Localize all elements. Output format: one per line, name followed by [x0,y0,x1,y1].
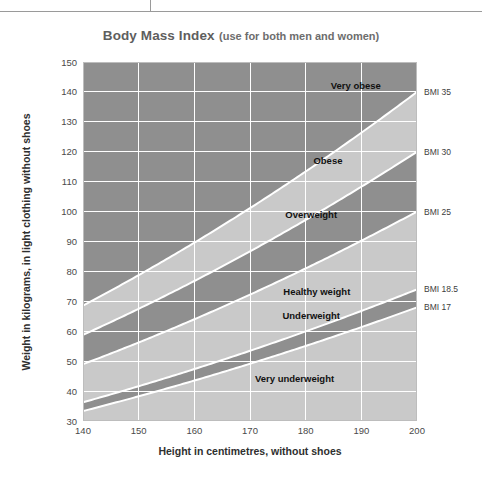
y-tick-90: 90 [66,236,77,247]
x-tick-200: 200 [409,425,425,436]
y-tick-50: 50 [66,356,77,367]
y-tick-130: 130 [61,116,77,127]
y-tick-150: 150 [61,57,77,68]
band-label-underweight: Underweight [282,310,340,321]
y-tick-40: 40 [66,386,77,397]
bmi-chart: 140150160170180190200 150140130120110100… [0,0,482,492]
x-axis-title: Height in centimetres, without shoes [158,445,341,457]
x-tick-190: 190 [353,425,369,436]
bmi-label-35: BMI 35 [424,87,451,97]
y-tick-140: 140 [61,86,77,97]
y-axis-title: Weight in kilograms, in light clothing w… [20,113,32,370]
y-tick-80: 80 [66,266,77,277]
bmi-label-17: BMI 17 [424,302,451,312]
x-tick-150: 150 [131,425,147,436]
bmi-chart-svg: 140150160170180190200 150140130120110100… [0,0,482,492]
bmi-label-25: BMI 25 [424,207,451,217]
y-tick-110: 110 [62,176,77,187]
band-label-overweight: Overweight [285,209,338,220]
band-label-very-underweight: Very underweight [255,373,335,384]
y-tick-60: 60 [66,326,77,337]
band-label-healthy-weight: Healthy weight [283,286,351,297]
y-tick-70: 70 [66,296,77,307]
bmi-label-18-5: BMI 18.5 [424,284,458,294]
x-axis-tick-labels: 140150160170180190200 [75,425,425,436]
x-tick-160: 160 [186,425,202,436]
x-tick-170: 170 [242,425,258,436]
y-tick-100: 100 [61,206,77,217]
y-tick-30: 30 [66,416,77,427]
band-label-very-obese: Very obese [331,80,381,91]
band-label-obese: Obese [313,155,342,166]
y-axis-tick-labels: 15014013012011010090807060504030 [61,57,77,427]
bmi-line-labels: BMI 35BMI 30BMI 25BMI 18.5BMI 17 [424,87,458,312]
bmi-label-30: BMI 30 [424,147,451,157]
x-tick-140: 140 [75,425,91,436]
x-tick-180: 180 [298,425,314,436]
y-tick-120: 120 [61,146,77,157]
